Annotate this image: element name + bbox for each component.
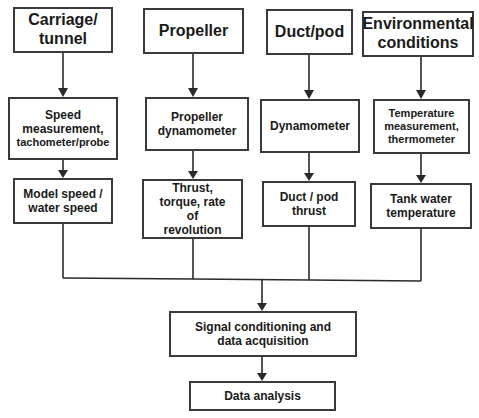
arrowhead <box>304 173 314 181</box>
arrowhead <box>257 373 267 381</box>
source-environmental-conditions: Environmental conditions <box>362 11 474 57</box>
source-label: Propeller <box>159 22 228 41</box>
collector-bus <box>63 278 421 281</box>
signal-conditioning-label: Signal conditioning and data acquisition <box>193 320 333 348</box>
source-label: Carriage/ tunnel <box>28 11 97 49</box>
measurement-model-speed: Model speed / water speed <box>13 178 113 224</box>
signal-conditioning-box: Signal conditioning and data acquisition <box>169 311 357 357</box>
instrument-label: Dynamometer <box>270 119 350 133</box>
measurement-duct-pod-thrust: Duct / pod thrust <box>262 181 356 227</box>
data-analysis-label: Data analysis <box>224 389 301 403</box>
arrowhead <box>188 171 198 179</box>
measurement-label: Duct / pod thrust <box>274 190 344 218</box>
instrument-label: Propeller dynamometer <box>153 110 241 138</box>
measurement-tank-water-temperature: Tank water temperature <box>370 183 472 229</box>
measurement-label: Model speed / water speed <box>21 187 105 215</box>
data-analysis-box: Data analysis <box>189 381 336 411</box>
source-label: Duct/pod <box>275 23 344 42</box>
measurement-label: Tank water temperature <box>378 192 464 220</box>
arrowhead <box>58 88 68 97</box>
source-label: Environmental conditions <box>362 15 473 53</box>
arrowhead <box>416 175 426 183</box>
source-duct-pod: Duct/pod <box>266 9 353 55</box>
instrument-sublabel: thermometer <box>388 133 455 146</box>
instrument-label: Speed measurement, <box>10 108 116 136</box>
instrument-speed-measurement: Speed measurement, tachometer/probe <box>8 97 118 160</box>
measurement-label: Thrust, torque, rate of revolution <box>158 181 227 238</box>
instrument-temperature-measurement: Temperature measurement, thermometer <box>373 99 470 154</box>
instrument-label: Temperature measurement, <box>375 107 468 133</box>
measurement-thrust-torque: Thrust, torque, rate of revolution <box>142 179 243 239</box>
instrument-dynamometer: Dynamometer <box>260 99 360 153</box>
source-propeller: Propeller <box>143 8 244 54</box>
source-carriage-tunnel: Carriage/ tunnel <box>13 7 113 53</box>
arrowhead <box>304 90 314 99</box>
arrowhead <box>416 90 426 99</box>
instrument-sublabel: tachometer/probe <box>17 136 110 149</box>
arrowhead <box>188 88 198 97</box>
instrument-propeller-dynamometer: Propeller dynamometer <box>145 97 249 151</box>
arrowhead <box>58 170 68 178</box>
arrowhead <box>257 303 267 311</box>
